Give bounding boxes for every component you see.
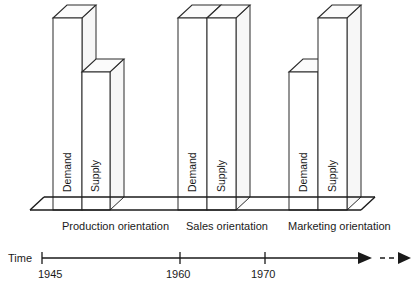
group-label-marketing: Marketing orientation bbox=[288, 220, 391, 232]
bar-side-face bbox=[236, 5, 250, 210]
demand-supply-3d-bar-chart: Demand Supply Demand Supply Demand Suppl… bbox=[0, 0, 415, 285]
baseline-depth-right bbox=[361, 197, 375, 210]
bar-label-supply: Supply bbox=[215, 159, 227, 192]
tick-label-1945: 1945 bbox=[38, 268, 62, 280]
diagram-container: Demand Supply Demand Supply Demand Suppl… bbox=[0, 0, 415, 285]
time-axis-arrowhead bbox=[358, 252, 372, 264]
bar-label-demand: Demand bbox=[297, 152, 309, 192]
bar-group-1-supply: Supply bbox=[82, 59, 124, 210]
group-label-sales: Sales orientation bbox=[186, 220, 268, 232]
bar-label-supply: Supply bbox=[89, 159, 101, 192]
bar-label-demand: Demand bbox=[186, 152, 198, 192]
tick-label-1960: 1960 bbox=[166, 268, 190, 280]
bar-side-face bbox=[110, 59, 124, 210]
bar-label-supply: Supply bbox=[326, 159, 338, 192]
group-label-production: Production orientation bbox=[62, 220, 169, 232]
time-axis-future-arrowhead bbox=[398, 252, 411, 264]
bar-label-demand: Demand bbox=[61, 152, 73, 192]
time-axis bbox=[42, 252, 411, 264]
bar-group-3-supply: Supply bbox=[318, 5, 361, 210]
baseline-depth-left bbox=[30, 197, 44, 210]
bar-side-face bbox=[347, 5, 361, 210]
tick-label-1970: 1970 bbox=[251, 268, 275, 280]
time-axis-label: Time bbox=[8, 252, 32, 264]
bar-group-2-supply: Supply bbox=[207, 5, 250, 210]
